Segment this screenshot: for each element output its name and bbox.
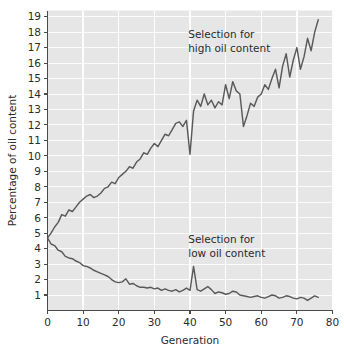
x-tick-label-10: 10 — [76, 316, 89, 328]
y-tick-label-12: 12 — [28, 119, 41, 131]
y-tick-label-17: 17 — [28, 41, 41, 53]
y-tick-label-6: 6 — [34, 212, 41, 224]
y-tick-label-8: 8 — [34, 181, 41, 193]
y-tick-label-19: 19 — [28, 10, 41, 22]
y-tick-label-2: 2 — [34, 273, 41, 285]
y-tick-label-9: 9 — [34, 165, 41, 177]
y-tick-label-16: 16 — [28, 57, 42, 69]
x-tick-label-60: 60 — [255, 316, 268, 328]
annotation-high-oil-line2: high oil content — [188, 42, 270, 54]
y-tick-label-5: 5 — [34, 227, 41, 239]
y-tick-label-14: 14 — [28, 88, 42, 100]
y-tick-label-3: 3 — [34, 258, 41, 270]
y-tick-label-15: 15 — [28, 72, 41, 84]
x-tick-label-70: 70 — [290, 316, 303, 328]
x-axis-title: Generation — [161, 334, 220, 346]
y-tick-label-1: 1 — [34, 289, 41, 301]
x-tick-label-0: 0 — [44, 316, 51, 328]
annotation-high-oil-line1: Selection for — [188, 28, 255, 40]
y-tick-label-11: 11 — [28, 134, 41, 146]
x-tick-label-40: 40 — [183, 316, 196, 328]
annotation-low-oil-line2: low oil content — [188, 247, 265, 259]
chart-svg: 12345678910111213141516171819 0102030405… — [0, 0, 344, 350]
x-axis-tick-labels: 01020304050607080 — [44, 316, 339, 328]
y-axis-title: Percentage of oil content — [6, 95, 18, 227]
y-tick-label-7: 7 — [34, 196, 41, 208]
x-tick-label-20: 20 — [112, 316, 125, 328]
annotation-low-oil-line1: Selection for — [188, 233, 255, 245]
x-tick-label-50: 50 — [219, 316, 232, 328]
y-tick-label-10: 10 — [28, 150, 41, 162]
y-tick-label-13: 13 — [28, 103, 41, 115]
y-tick-label-4: 4 — [34, 242, 41, 254]
oil-content-chart: 12345678910111213141516171819 0102030405… — [0, 0, 344, 350]
y-tick-label-18: 18 — [28, 26, 41, 38]
x-tick-label-30: 30 — [148, 316, 161, 328]
x-tick-label-80: 80 — [326, 316, 339, 328]
